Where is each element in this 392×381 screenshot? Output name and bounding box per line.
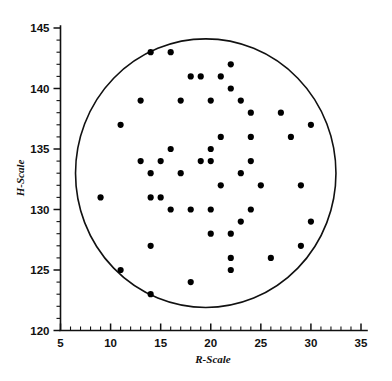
data-point bbox=[298, 182, 304, 188]
y-tick-label: 145 bbox=[30, 22, 50, 34]
data-point bbox=[228, 255, 234, 261]
data-point bbox=[198, 73, 204, 79]
data-point bbox=[168, 49, 174, 55]
data-point bbox=[188, 206, 194, 212]
x-axis-tick-labels: 5101520253035 bbox=[57, 337, 368, 349]
data-point bbox=[228, 85, 234, 91]
data-point bbox=[118, 267, 124, 273]
y-axis-tick-labels: 120125130135140145 bbox=[30, 22, 50, 337]
data-point bbox=[148, 49, 154, 55]
y-tick-label: 125 bbox=[30, 264, 50, 276]
axes-lines bbox=[60, 26, 367, 331]
data-point bbox=[238, 219, 244, 225]
data-point bbox=[138, 98, 144, 104]
plot-canvas: 120125130135140145 5101520253035 R-Scale… bbox=[0, 0, 392, 381]
data-point bbox=[138, 158, 144, 164]
data-point bbox=[208, 206, 214, 212]
data-point bbox=[178, 170, 184, 176]
data-point bbox=[308, 122, 314, 128]
data-point bbox=[218, 182, 224, 188]
data-point bbox=[228, 61, 234, 67]
data-point bbox=[208, 146, 214, 152]
data-point bbox=[188, 73, 194, 79]
data-point bbox=[298, 243, 304, 249]
data-point bbox=[158, 158, 164, 164]
y-tick-label: 140 bbox=[30, 83, 49, 95]
x-tick-label: 20 bbox=[204, 337, 217, 349]
x-tick-label: 10 bbox=[104, 337, 117, 349]
data-point bbox=[148, 194, 154, 200]
x-tick-label: 5 bbox=[57, 337, 64, 349]
data-point bbox=[188, 279, 194, 285]
data-point bbox=[228, 231, 234, 237]
x-axis-title: R-Scale bbox=[194, 353, 231, 365]
data-point bbox=[228, 267, 234, 273]
data-point bbox=[238, 98, 244, 104]
y-tick-label: 120 bbox=[30, 325, 49, 337]
data-point bbox=[148, 291, 154, 297]
y-axis-title: H-Scale bbox=[14, 160, 26, 198]
data-point bbox=[248, 134, 254, 140]
data-point bbox=[118, 122, 124, 128]
data-point bbox=[288, 134, 294, 140]
data-point bbox=[168, 146, 174, 152]
data-point bbox=[208, 231, 214, 237]
data-point bbox=[218, 73, 224, 79]
data-point bbox=[308, 219, 314, 225]
data-point bbox=[178, 98, 184, 104]
data-point bbox=[168, 206, 174, 212]
x-tick-label: 15 bbox=[154, 337, 167, 349]
scatter-plot-figure: 120125130135140145 5101520253035 R-Scale… bbox=[0, 0, 392, 381]
data-point bbox=[248, 206, 254, 212]
data-point-group bbox=[97, 49, 314, 297]
data-point bbox=[248, 110, 254, 116]
x-tick-label: 35 bbox=[355, 337, 368, 349]
data-point bbox=[148, 170, 154, 176]
y-axis-ticks bbox=[54, 28, 61, 331]
data-point bbox=[148, 243, 154, 249]
data-point bbox=[218, 134, 224, 140]
y-tick-label: 135 bbox=[30, 143, 50, 155]
data-point bbox=[208, 158, 214, 164]
data-point bbox=[158, 194, 164, 200]
x-tick-label: 25 bbox=[254, 337, 267, 349]
data-point bbox=[238, 170, 244, 176]
data-point bbox=[278, 110, 284, 116]
data-point bbox=[268, 255, 274, 261]
data-point bbox=[198, 158, 204, 164]
data-point bbox=[248, 158, 254, 164]
data-point bbox=[97, 194, 103, 200]
x-axis-ticks bbox=[61, 324, 362, 331]
x-tick-label: 30 bbox=[305, 337, 318, 349]
y-tick-label: 130 bbox=[30, 204, 49, 216]
data-point bbox=[258, 182, 264, 188]
boundary-ellipse bbox=[76, 39, 336, 308]
data-point bbox=[208, 98, 214, 104]
